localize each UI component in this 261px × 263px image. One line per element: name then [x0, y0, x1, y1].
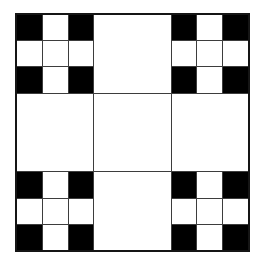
white-cell-center	[94, 94, 170, 172]
black-square	[69, 172, 94, 197]
white-square	[197, 199, 222, 224]
white-square	[172, 41, 197, 66]
white-square	[43, 15, 68, 40]
white-square	[223, 41, 248, 66]
white-square	[43, 199, 68, 224]
white-square	[172, 199, 197, 224]
white-square	[43, 67, 68, 92]
black-square	[17, 225, 42, 250]
white-square	[197, 225, 222, 250]
white-square	[223, 199, 248, 224]
white-square	[17, 199, 42, 224]
white-square	[17, 41, 42, 66]
black-square	[17, 172, 42, 197]
black-square	[69, 67, 94, 92]
black-square	[172, 15, 197, 40]
white-cell-bottom-center	[94, 172, 170, 250]
black-square	[69, 15, 94, 40]
white-cell-middle-left	[17, 94, 93, 172]
corner-subgrid-cell-bottom-right	[172, 172, 248, 250]
white-square	[197, 67, 222, 92]
black-square	[223, 225, 248, 250]
page-background	[0, 0, 261, 263]
white-cell-middle-right	[172, 94, 248, 172]
black-square	[17, 67, 42, 92]
fractal-figure	[15, 13, 250, 252]
black-square	[223, 67, 248, 92]
white-square	[197, 172, 222, 197]
corner-subgrid-cell-top-left	[17, 15, 93, 93]
corner-subgrid-cell-bottom-left	[17, 172, 93, 250]
black-square	[172, 67, 197, 92]
black-square	[172, 172, 197, 197]
black-square	[172, 225, 197, 250]
white-square	[43, 225, 68, 250]
white-square	[197, 15, 222, 40]
white-square	[69, 199, 94, 224]
white-square	[43, 41, 68, 66]
black-square	[223, 172, 248, 197]
black-square	[69, 225, 94, 250]
black-square	[223, 15, 248, 40]
corner-subgrid-cell-top-right	[172, 15, 248, 93]
white-square	[197, 41, 222, 66]
white-square	[43, 172, 68, 197]
white-square	[69, 41, 94, 66]
white-cell-top-center	[94, 15, 170, 93]
black-square	[17, 15, 42, 40]
